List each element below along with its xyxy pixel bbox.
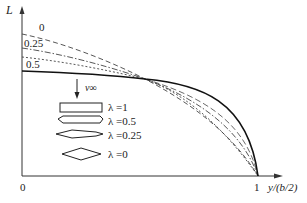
- curve-lambda-0-tip: [145, 79, 258, 176]
- x-axis-label: y/(b/2): [268, 182, 297, 193]
- curve-label-0.5: 0.5: [26, 59, 40, 70]
- origin-label: 0: [20, 182, 26, 193]
- curve-lambda-0.5: [22, 57, 258, 176]
- planform-diamond-icon: [62, 148, 101, 160]
- curve-lambda-1: [22, 71, 258, 176]
- legend-lambda-0: λ =0: [108, 149, 128, 160]
- legend-lambda-1: λ =1: [108, 102, 128, 113]
- legend-lambda-0.25: λ =0.25: [108, 130, 142, 141]
- curve-label-0: 0: [39, 22, 45, 33]
- x-end-label: 1: [254, 182, 260, 193]
- curve-label-0.25: 0.25: [24, 38, 43, 49]
- velocity-arrow-icon: [75, 92, 80, 99]
- legend-lambda-0.5: λ =0.5: [108, 116, 136, 127]
- planform-rectangle-icon: [60, 103, 102, 112]
- planform-lambda-0.5-icon: [58, 116, 103, 123]
- velocity-label: v∞: [85, 83, 97, 93]
- curve-lambda-0.25: [22, 48, 258, 176]
- x-axis-arrow-icon: [274, 174, 283, 179]
- lift-distribution-plot: [0, 0, 307, 203]
- planform-lambda-0.25-icon: [56, 130, 103, 138]
- y-axis-arrow-icon: [20, 6, 25, 14]
- y-axis-label: L: [6, 4, 13, 16]
